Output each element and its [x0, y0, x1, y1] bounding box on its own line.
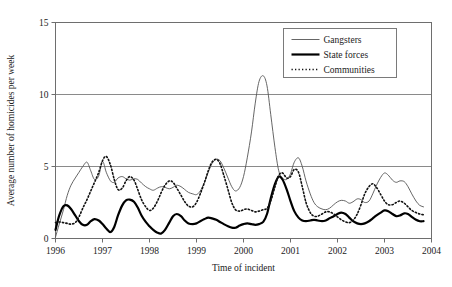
x-tick-label-2000: 2000 — [234, 246, 253, 256]
y-axis-ticks: 051015 — [39, 18, 56, 244]
x-tick-label-1996: 1996 — [46, 246, 65, 256]
series-line-state-forces — [56, 176, 424, 233]
legend-label-gangsters: Gangsters — [324, 35, 362, 45]
x-tick-label-1998: 1998 — [140, 246, 159, 256]
x-tick-label-2004: 2004 — [422, 246, 441, 256]
x-tick-label-2003: 2003 — [375, 246, 394, 256]
y-tick-label-0: 0 — [44, 234, 49, 244]
x-tick-label-2002: 2002 — [328, 246, 347, 256]
x-tick-label-1997: 1997 — [93, 246, 112, 256]
series-layer — [56, 76, 424, 237]
x-axis-ticks: 199619971998199920002001200220032004 — [46, 239, 441, 256]
x-tick-label-2001: 2001 — [281, 246, 300, 256]
y-tick-label-10: 10 — [39, 90, 49, 100]
legend-label-state-forces: State forces — [324, 50, 369, 60]
x-axis-title: Time of incident — [212, 263, 275, 273]
series-line-gangsters — [56, 76, 424, 237]
y-axis-title: Average number of homicides per week — [6, 55, 16, 207]
legend-label-communities: Communities — [324, 65, 376, 75]
y-tick-label-15: 15 — [39, 18, 49, 28]
y-tick-label-5: 5 — [44, 162, 49, 172]
line-chart: 051015 199619971998199920002001200220032… — [0, 0, 452, 287]
chart-figure: 051015 199619971998199920002001200220032… — [0, 0, 452, 287]
legend: GangstersState forcesCommunities — [284, 29, 397, 78]
x-tick-label-1999: 1999 — [187, 246, 206, 256]
